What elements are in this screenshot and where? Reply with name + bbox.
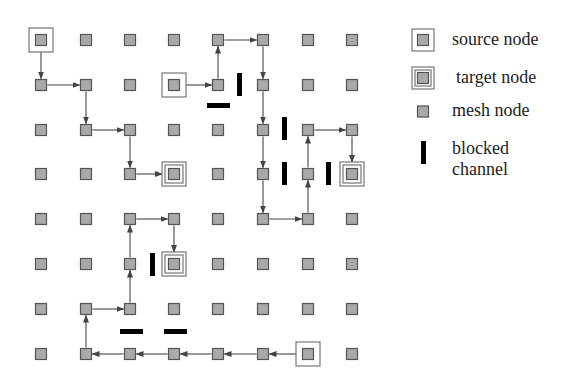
mesh-node <box>347 259 358 270</box>
legend: source node target node mesh node blocke… <box>408 0 562 380</box>
mesh-node <box>81 169 92 180</box>
target-node-icon <box>410 65 438 93</box>
legend-label-blocked: blocked channel <box>452 138 509 180</box>
blocked-channel <box>164 329 187 334</box>
legend-label-blocked-line1: blocked <box>452 138 509 159</box>
mesh-node <box>36 349 47 360</box>
target-node <box>162 252 186 276</box>
mesh-node <box>81 214 92 225</box>
mesh-node <box>125 214 136 225</box>
path-1 <box>41 52 162 174</box>
mesh-node <box>258 259 269 270</box>
mesh-node <box>81 125 92 136</box>
mesh-node <box>81 259 92 270</box>
source-node <box>296 342 320 366</box>
mesh-node <box>213 35 224 46</box>
mesh-routing-diagram <box>0 0 400 380</box>
mesh-node <box>36 169 47 180</box>
mesh-node <box>169 304 180 315</box>
mesh-node <box>347 35 358 46</box>
legend-item-mesh: mesh node <box>408 100 529 124</box>
mesh-node <box>213 349 224 360</box>
mesh-node <box>303 35 314 46</box>
mesh-node <box>36 80 47 91</box>
mesh-node <box>303 169 314 180</box>
legend-item-source: source node <box>408 27 538 55</box>
mesh-node <box>347 214 358 225</box>
mesh-node <box>81 35 92 46</box>
mesh-node <box>258 169 269 180</box>
mesh-node <box>169 349 180 360</box>
mesh-node <box>125 169 136 180</box>
mesh-node <box>125 259 136 270</box>
mesh-node <box>213 169 224 180</box>
mesh-node <box>81 304 92 315</box>
mesh-node <box>213 259 224 270</box>
mesh-node <box>81 80 92 91</box>
blocked-channel <box>150 253 155 276</box>
blocked-channel <box>237 73 242 96</box>
mesh-node <box>258 214 269 225</box>
source-node-icon <box>410 27 438 55</box>
mesh-node <box>125 349 136 360</box>
mesh-node <box>125 304 136 315</box>
mesh-node <box>303 304 314 315</box>
mesh-node <box>81 349 92 360</box>
legend-label-target: target node <box>456 67 536 88</box>
source-node <box>29 28 53 52</box>
legend-item-target: target node <box>408 65 536 93</box>
mesh-node <box>125 35 136 46</box>
mesh-node <box>303 214 314 225</box>
mesh-node <box>36 304 47 315</box>
mesh-node <box>36 125 47 136</box>
mesh-node <box>347 304 358 315</box>
mesh-node <box>169 35 180 46</box>
blocked-channel <box>282 117 287 140</box>
legend-label-blocked-line2: channel <box>452 159 509 180</box>
legend-label-mesh: mesh node <box>452 100 529 121</box>
mesh-node <box>258 80 269 91</box>
mesh-node <box>347 80 358 91</box>
legend-item-blocked: blocked channel <box>408 138 509 180</box>
blocked-channel-icon <box>410 138 438 168</box>
mesh-node <box>303 125 314 136</box>
mesh-nodes <box>29 28 364 366</box>
target-node <box>340 162 364 186</box>
mesh-node <box>347 125 358 136</box>
mesh-node <box>303 80 314 91</box>
mesh-node <box>213 80 224 91</box>
mesh-node <box>258 35 269 46</box>
mesh-node <box>213 304 224 315</box>
mesh-node <box>303 259 314 270</box>
mesh-node <box>36 259 47 270</box>
mesh-node <box>36 214 47 225</box>
mesh-node <box>125 80 136 91</box>
blocked-channel <box>282 162 287 185</box>
path-3 <box>86 219 296 354</box>
blocked-channel <box>120 329 143 334</box>
mesh-node <box>258 125 269 136</box>
mesh-node <box>213 214 224 225</box>
legend-label-source: source node <box>452 29 538 50</box>
blocked-channel <box>326 162 331 185</box>
mesh-node <box>347 349 358 360</box>
mesh-node <box>169 125 180 136</box>
blocked-channels <box>120 73 331 334</box>
mesh-node <box>258 304 269 315</box>
mesh-node <box>169 214 180 225</box>
target-node <box>162 162 186 186</box>
source-node <box>162 73 186 97</box>
mesh-node <box>213 125 224 136</box>
mesh-node <box>125 125 136 136</box>
blocked-channel <box>207 103 230 108</box>
mesh-node <box>258 349 269 360</box>
mesh-node-icon <box>410 100 438 124</box>
